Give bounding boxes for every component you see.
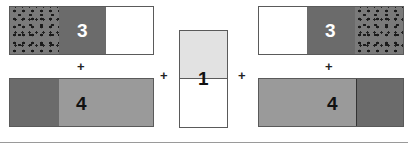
dotted-segment xyxy=(355,7,403,54)
left-bottom-number: 4 xyxy=(76,94,87,113)
right-bottom-bar: 4 xyxy=(258,78,404,127)
dotted-segment xyxy=(10,7,59,54)
white-segment xyxy=(259,7,307,54)
plus-right: + xyxy=(238,69,246,82)
left-top-bar: 3 xyxy=(9,6,154,55)
plus-left: + xyxy=(160,69,168,82)
right-top-bar: 3 xyxy=(258,6,404,55)
dark-segment xyxy=(356,79,403,126)
dark-segment xyxy=(10,79,59,126)
light-segment xyxy=(59,79,153,126)
divider-line xyxy=(0,142,408,143)
middle-number: 1 xyxy=(198,69,209,88)
right-group-plus: + xyxy=(325,60,333,73)
right-top-number: 3 xyxy=(325,21,336,40)
light-segment xyxy=(259,79,356,126)
left-top-number: 3 xyxy=(77,21,88,40)
left-bottom-bar: 4 xyxy=(9,78,154,127)
middle-bar: 1 xyxy=(179,30,228,128)
right-bottom-number: 4 xyxy=(327,94,338,113)
left-group-plus: + xyxy=(77,60,85,73)
white-segment xyxy=(106,7,153,54)
